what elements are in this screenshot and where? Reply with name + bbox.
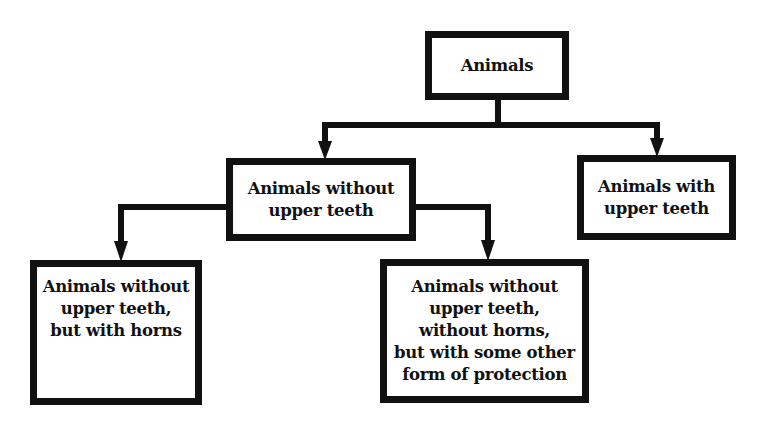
node-with-upper-teeth-label: Animals with upper teeth [598, 176, 715, 220]
to-protection-line [415, 207, 488, 244]
node-animals-label: Animals [461, 55, 534, 77]
classification-diagram: Animals Animals without upper teeth Anim… [0, 0, 758, 433]
node-with-horns: Animals without upper teeth, but with ho… [30, 260, 202, 405]
node-without-upper-teeth-label: Animals without upper teeth [248, 178, 395, 222]
node-with-upper-teeth: Animals with upper teeth [577, 155, 736, 240]
node-with-horns-label: Animals without upper teeth, but with ho… [43, 276, 190, 342]
arrowhead-icon [481, 240, 495, 261]
node-without-upper-teeth: Animals without upper teeth [226, 158, 416, 241]
node-animals: Animals [425, 31, 569, 100]
to-horns-line [121, 207, 226, 245]
node-other-protection-label: Animals without upper teeth, without hor… [394, 276, 575, 386]
arrowhead-icon [114, 241, 128, 262]
node-other-protection: Animals without upper teeth, without hor… [380, 259, 589, 403]
